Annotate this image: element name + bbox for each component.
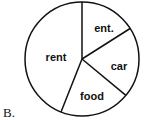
pie-chart: ent. car food rent <box>0 0 148 120</box>
slice-label-car: car <box>111 60 128 72</box>
slice-label-food: food <box>80 90 104 102</box>
slice-label-rent: rent <box>46 51 67 63</box>
option-label: B. <box>3 105 15 120</box>
slice-label-ent: ent. <box>94 22 114 34</box>
